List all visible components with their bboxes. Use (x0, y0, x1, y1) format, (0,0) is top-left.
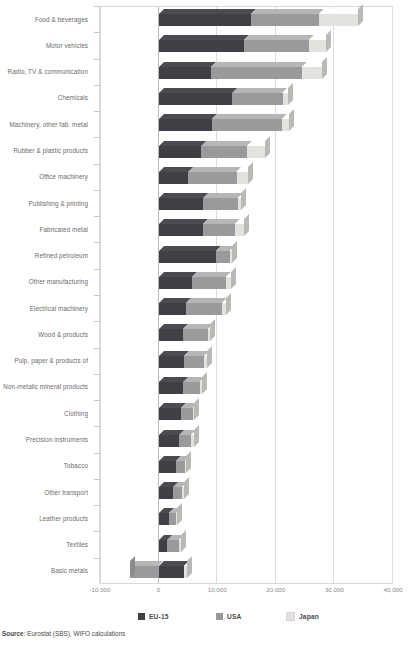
category-tick (94, 558, 100, 559)
bar-segment-face (179, 435, 191, 447)
category-tick (94, 6, 100, 7)
category-label: Precision instruments (26, 436, 88, 443)
bar-segment-face (181, 408, 193, 420)
bar-side-face (322, 57, 327, 79)
bar-segment-face (201, 146, 247, 158)
bar-segment-eu-15 (159, 540, 168, 552)
bar-segment-usa (188, 172, 236, 184)
bar-segment-face (159, 408, 181, 420)
bar-segment-face (203, 224, 235, 236)
bar-segment-face (159, 277, 192, 289)
bar-side-face (231, 267, 236, 289)
bar-segment-eu-15 (159, 40, 244, 52)
bar-segment-face (188, 172, 236, 184)
category-label: Office machinery (39, 173, 88, 180)
category-label: Wood & products (38, 331, 88, 338)
bar-segment-face (159, 487, 174, 499)
bar-side-face (288, 83, 293, 105)
bar-segment-eu-15 (159, 251, 216, 263)
category-label: Other transport (44, 489, 88, 496)
category-label: Clothing (64, 410, 88, 417)
category-label: Leather products (39, 515, 88, 522)
category-label: Other manufacturing (29, 278, 88, 285)
bar-segment-face (159, 198, 204, 210)
bar-row (100, 382, 393, 394)
x-tick-label: 20,000 (266, 586, 285, 593)
bar-segment-face (159, 251, 216, 263)
bar-row (100, 172, 393, 184)
legend-label: USA (227, 613, 242, 620)
bar-segment-usa (232, 93, 282, 105)
x-tick-label: 10,000 (208, 586, 227, 593)
bar-row (100, 540, 393, 552)
legend-swatch (286, 612, 295, 621)
value-axis-ticks: -10,000010,00020,00030,00040,000 (0, 586, 412, 598)
bar-segment-japan (309, 40, 326, 52)
bar-side-face (186, 451, 191, 473)
bar-segment-eu-15 (159, 277, 192, 289)
category-label: Electrical machinery (30, 305, 88, 312)
bar-row (100, 146, 393, 158)
bar-row (100, 461, 393, 473)
bar-side-face (210, 319, 215, 341)
bar-segment-eu-15 (159, 224, 203, 236)
bar-row (100, 408, 393, 420)
bar-row (100, 251, 393, 263)
bar-segment-face (159, 172, 189, 184)
bar-segment-face (251, 14, 319, 26)
bar-segment-usa (216, 251, 230, 263)
legend-item-japan[interactable]: Japan (286, 612, 319, 621)
bar-segment-eu-15 (159, 303, 186, 315)
bar-segment-face (159, 146, 202, 158)
bar-segment-face (159, 566, 184, 578)
source-note: Source: Eurostat (SBS), WIFO calculation… (2, 630, 125, 637)
bar-segment-face (159, 513, 169, 525)
bar-segment-japan (282, 119, 289, 131)
category-label: Motor vehicles (46, 42, 88, 49)
legend-item-eu-15[interactable]: EU-15 (138, 613, 169, 620)
category-tick (94, 348, 100, 349)
category-label: Non-metalic mineral products (3, 383, 88, 390)
bar-segment-eu-15 (159, 461, 176, 473)
bar-row (100, 435, 393, 447)
bar-segment-face (235, 224, 244, 236)
bar-segment-face (169, 513, 176, 525)
category-tick (94, 137, 100, 138)
category-tick (94, 164, 100, 165)
bar-segment-usa (203, 224, 235, 236)
bar-segment-eu-15 (159, 356, 184, 368)
category-label: Pulp, paper & products of (14, 357, 88, 364)
bar-segment-usa (251, 14, 319, 26)
bar-segment-face (173, 487, 182, 499)
bar-side-face (248, 162, 253, 184)
source-text: : Eurostat (SBS), WIFO calculations (24, 630, 126, 637)
bar-segment-face (159, 14, 251, 26)
legend-item-usa[interactable]: USA (216, 613, 242, 620)
legend-label: EU-15 (149, 613, 169, 620)
bar-segment-eu-15 (159, 513, 169, 525)
bar-side-face (184, 477, 189, 499)
bar-segment-japan (237, 172, 248, 184)
bar-row (100, 356, 393, 368)
bar-segment-japan (235, 224, 244, 236)
category-tick (94, 531, 100, 532)
bar-row (100, 277, 393, 289)
category-tick (94, 400, 100, 401)
category-label: Machinery, other fab. metal (9, 121, 88, 128)
category-tick (94, 453, 100, 454)
legend-swatch (138, 613, 145, 620)
category-tick (94, 321, 100, 322)
bars-layer (100, 6, 393, 584)
bar-segment-face (211, 67, 302, 79)
bar-segment-face (203, 198, 238, 210)
bar-segment-usa (167, 540, 179, 552)
bar-segment-japan (302, 67, 322, 79)
bar-segment-eu-15 (159, 172, 189, 184)
bar-segment-face (232, 93, 282, 105)
category-tick (94, 85, 100, 86)
bar-segment-face (183, 382, 200, 394)
category-tick (94, 216, 100, 217)
bar-segment-usa (192, 277, 226, 289)
category-label: Textiles (66, 541, 88, 548)
bar-segment-face (309, 40, 326, 52)
